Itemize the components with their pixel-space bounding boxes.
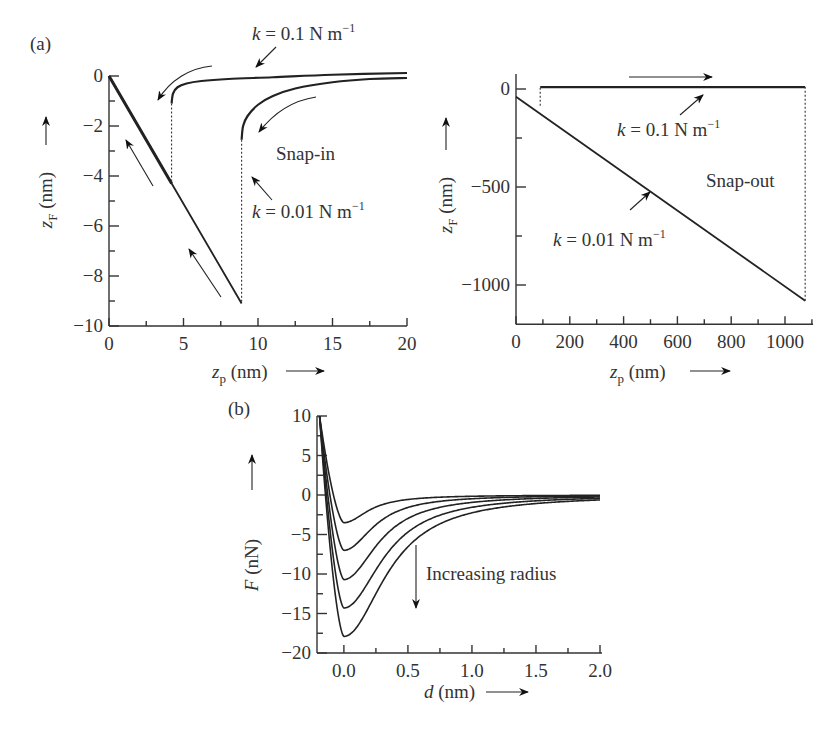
x-tick-label: 0 [511, 331, 521, 352]
y-axis-label-a-right: zF (nm) [435, 177, 460, 234]
y-tick-label: −10 [73, 315, 103, 336]
force-curve [320, 416, 600, 580]
y-tick-label: −20 [281, 642, 311, 663]
panel-b: (b) 0.00.51.01.52.01050−5−10−15−20 F (nN… [228, 398, 612, 703]
y-tick-label: −500 [471, 176, 510, 197]
y-axis-label-b: F (nN) [241, 539, 263, 592]
y-tick-label: −2 [83, 115, 103, 136]
annotation-k01: k = 0.1 N m−1 [617, 117, 720, 140]
x-tick-label: 1.0 [460, 660, 484, 681]
y-tick-label: −4 [83, 165, 104, 186]
y-tick-label: 5 [302, 445, 312, 466]
arrow-icon [680, 95, 703, 115]
plot-area-a-left [109, 73, 407, 304]
force-curve [320, 416, 600, 523]
x-tick-label: 0 [104, 333, 114, 354]
y-tick-label: −6 [83, 215, 103, 236]
x-tick-label: 800 [717, 331, 746, 352]
x-tick-label: 400 [609, 331, 638, 352]
annotation-snap-in: Snap-in [276, 143, 336, 164]
x-axis-label-b: d (nm) [424, 681, 475, 703]
y-tick-label: 0 [501, 78, 511, 99]
y-tick-label: −8 [83, 265, 103, 286]
x-axis-label-a-right: zp (nm) [609, 361, 666, 386]
x-tick-label: 5 [179, 333, 189, 354]
panel-label-b: (b) [228, 398, 250, 420]
arrow-icon [256, 47, 276, 67]
x-tick-label: 20 [398, 333, 417, 354]
annotation-k01: k = 0.1 N m−1 [252, 21, 355, 44]
x-tick-label: 2.0 [588, 660, 612, 681]
x-tick-label: 15 [323, 333, 342, 354]
plot-area-b [320, 416, 600, 637]
arrow-icon [189, 249, 221, 297]
svg-text:zF (nm): zF (nm) [35, 172, 60, 229]
x-axis-label-a-left: zp (nm) [211, 361, 268, 386]
y-tick-label: −1000 [461, 274, 510, 295]
annotation-k001: k = 0.01 N m−1 [252, 199, 365, 222]
svg-text:zF (nm): zF (nm) [435, 177, 460, 234]
x-tick-label: 1000 [766, 331, 804, 352]
curved-arrow-icon [259, 97, 316, 132]
panel-label-a: (a) [30, 33, 51, 55]
arrow-icon [630, 192, 650, 210]
x-tick-label: 0.0 [332, 660, 356, 681]
x-tick-label: 0.5 [396, 660, 420, 681]
annotation-increasing-radius: Increasing radius [426, 563, 556, 584]
x-tick-label: 10 [249, 333, 268, 354]
force-curve [320, 416, 600, 550]
y-tick-label: −5 [291, 524, 311, 545]
x-tick-label: 1.5 [524, 660, 548, 681]
x-tick-label: 200 [556, 331, 585, 352]
y-tick-label: 10 [292, 405, 311, 426]
panel-a-right: 020040060080010000−500−1000 zF (nm) zp (… [435, 74, 813, 386]
data-series [172, 73, 407, 104]
axes-a-left: 051015200−2−4−6−8−10 [73, 65, 416, 354]
y-tick-label: 0 [94, 65, 104, 86]
y-tick-label: −10 [281, 563, 311, 584]
arrow-icon [252, 177, 272, 200]
svg-text:F (nN): F (nN) [241, 539, 263, 592]
figure: (a) 051015200−2−4−6−8−10 zF (nm) zp (nm)… [0, 0, 834, 732]
y-tick-label: −15 [281, 603, 311, 624]
axes-a-right: 020040060080010000−500−1000 [461, 74, 813, 352]
x-tick-label: 600 [663, 331, 692, 352]
force-curve [320, 416, 600, 637]
annotation-snap-out: Snap-out [706, 170, 775, 191]
data-series [242, 78, 407, 140]
y-tick-label: 0 [302, 484, 312, 505]
y-axis-label-a-left: zF (nm) [35, 172, 60, 229]
panel-a-left: (a) 051015200−2−4−6−8−10 zF (nm) zp (nm)… [30, 21, 417, 386]
annotation-k001: k = 0.01 N m−1 [553, 227, 666, 250]
